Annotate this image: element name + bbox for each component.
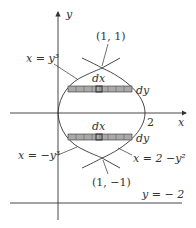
region-diagram: y x y = − 2 dx dy dx dy 2 (1, 1) (1, −1)… — [0, 0, 196, 228]
x-intercept-label: 2 — [147, 116, 154, 129]
leader-x-equals-y-cubed — [54, 64, 77, 79]
leader-x-equals-2-minus-y-squared — [118, 148, 132, 155]
upper-dx-label: dx — [92, 72, 106, 85]
lower-dy-label: dy — [136, 132, 150, 145]
curve-x-equals-neg-y-cubed — [58, 113, 120, 168]
upper-strip — [68, 86, 132, 92]
lower-strip — [68, 134, 132, 140]
leader-1-neg1 — [103, 160, 108, 174]
point-1-neg1-label: (1, −1) — [92, 176, 131, 189]
label-x-equals-y-cubed: x = y³ — [26, 52, 59, 65]
label-x-equals-2-minus-y-squared: x = 2 −y² — [133, 152, 186, 165]
line-y-minus-2-label: y = − 2 — [141, 188, 184, 201]
x-axis-label: x — [178, 116, 185, 129]
upper-dy-label: dy — [136, 84, 150, 97]
leader-1-1 — [102, 44, 108, 66]
leader-x-equals-neg-y-cubed — [58, 147, 77, 155]
point-1-1-label: (1, 1) — [96, 30, 126, 43]
y-axis-label: y — [65, 8, 73, 21]
label-x-equals-neg-y-cubed: x = −y³ — [18, 149, 60, 162]
curve-x-equals-y-cubed — [58, 58, 120, 113]
lower-dx-label: dx — [92, 120, 106, 133]
